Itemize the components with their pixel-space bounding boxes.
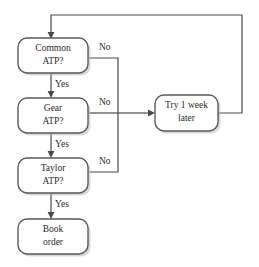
node-common-atp-line1: Common [35,43,71,53]
edge-label-no-gear: No [99,97,111,107]
arrowhead-yes-gear [48,151,55,158]
node-taylor-atp-line2: ATP? [42,176,63,186]
edge-label-no-common: No [99,42,111,52]
node-taylor-atp-line1: Taylor [41,163,66,173]
node-gear-atp-line2: ATP? [42,116,63,126]
edge-yes-taylor [48,192,55,219]
edge-label-yes-taylor: Yes [55,199,69,209]
node-book-order[interactable]: Book order [18,219,91,257]
edge-label-yes-gear: Yes [55,139,69,149]
flowchart-svg: Common ATP? Gear ATP? Taylor ATP? Book o… [0,0,259,267]
edge-yes-gear [48,133,55,158]
arrowhead-yes-taylor [48,212,55,219]
edge-label-yes-common: Yes [55,79,69,89]
node-try-later-line2: later [178,113,196,123]
node-try-later-line1: Try 1 week [165,100,208,110]
node-common-atp[interactable]: Common ATP? [18,38,91,76]
node-common-atp-line2: ATP? [42,56,63,66]
node-gear-atp[interactable]: Gear ATP? [18,98,91,136]
edge-trunk-to-try [118,110,155,117]
edge-yes-common [48,73,55,98]
arrowhead-try [148,110,155,117]
node-try-later[interactable]: Try 1 week later [155,95,221,134]
flowchart-canvas: Common ATP? Gear ATP? Taylor ATP? Book o… [0,0,259,267]
node-gear-atp-line1: Gear [44,103,63,113]
node-taylor-atp[interactable]: Taylor ATP? [18,158,91,196]
arrowhead-yes-common [48,91,55,98]
node-book-order-line2: order [43,237,64,247]
edge-label-no-taylor: No [99,156,111,166]
node-book-order-line1: Book [43,224,64,234]
